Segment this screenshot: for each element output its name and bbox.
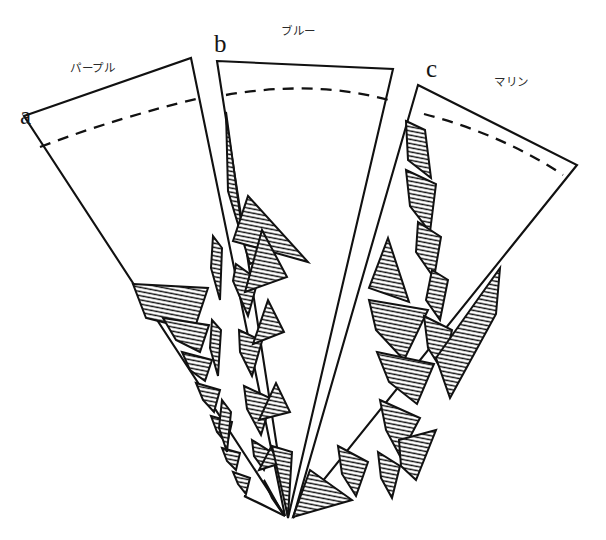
label-letter-b: b bbox=[214, 30, 227, 57]
label-letter-c: c bbox=[426, 55, 437, 82]
label-sector-a-name: パープル bbox=[70, 62, 115, 74]
fan-sector-figure: a b c パープル ブルー マリン bbox=[0, 0, 606, 540]
label-sector-c-name: マリン bbox=[494, 76, 529, 88]
diagram-canvas: a b c パープル ブルー マリン bbox=[0, 0, 606, 540]
label-letter-a: a bbox=[20, 102, 31, 129]
label-sector-b-name: ブルー bbox=[281, 24, 316, 37]
